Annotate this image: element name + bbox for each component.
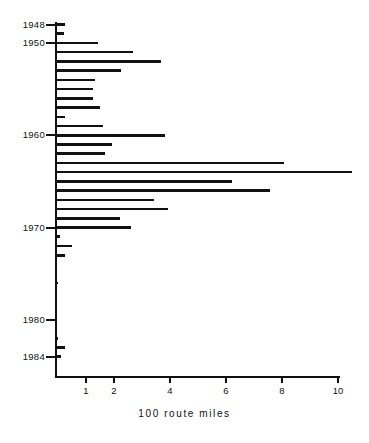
bar [57, 208, 168, 211]
bar [57, 162, 284, 165]
bar [57, 32, 64, 35]
bar [57, 116, 65, 119]
y-axis-tick-label: 1980 [9, 315, 45, 325]
bar [57, 355, 61, 358]
y-axis-tick [46, 24, 57, 26]
y-axis-tick-labels: 194819501960197019801984 [0, 0, 45, 443]
x-axis-tick-label: 1 [83, 386, 88, 396]
bar [57, 60, 161, 63]
bar [57, 171, 352, 174]
bar [57, 346, 65, 349]
y-axis-tick [46, 227, 57, 229]
x-axis-tick [113, 376, 115, 383]
x-axis-tick [281, 376, 283, 383]
bar [57, 337, 58, 340]
y-axis-tick [46, 319, 57, 321]
bar [57, 69, 121, 72]
x-axis-tick-label: 2 [111, 386, 116, 396]
x-axis-title: 100 route miles [0, 408, 369, 419]
y-axis-tick-label: 1960 [9, 130, 45, 140]
bar [57, 217, 120, 220]
y-axis-tick-label: 1948 [9, 20, 45, 30]
bar [57, 23, 65, 26]
y-axis-tick-label: 1970 [9, 223, 45, 233]
x-axis-tick-label: 10 [333, 386, 344, 396]
bar [57, 106, 100, 109]
x-axis-tick [85, 376, 87, 383]
bar [57, 88, 93, 91]
bar [57, 79, 95, 82]
bar [57, 189, 270, 192]
bar [57, 235, 60, 238]
bar-chart: 194819501960197019801984 1246810 100 rou… [0, 0, 369, 443]
bar [57, 97, 93, 100]
x-axis-tick-label: 4 [167, 386, 172, 396]
y-axis-tick-label: 1950 [9, 38, 45, 48]
y-axis-tick [46, 42, 57, 44]
x-axis-tick [225, 376, 227, 383]
bar [57, 143, 112, 146]
x-axis-line [55, 376, 340, 378]
bar [57, 199, 154, 202]
x-axis-tick-label: 8 [279, 386, 284, 396]
y-axis-tick [46, 356, 57, 358]
bar [57, 125, 103, 128]
y-axis-tick [46, 134, 57, 136]
bar [57, 254, 65, 257]
y-axis-tick-label: 1984 [9, 352, 45, 362]
bar [57, 245, 72, 248]
bar [57, 51, 133, 54]
bar [57, 226, 131, 229]
x-axis-tick-label: 6 [223, 386, 228, 396]
bar [57, 152, 105, 155]
bar [57, 42, 98, 45]
x-axis-tick [169, 376, 171, 383]
plot-area: 194819501960197019801984 1246810 100 rou… [0, 0, 369, 443]
bar [57, 134, 165, 137]
bar [57, 180, 232, 183]
bar [57, 282, 58, 285]
x-axis-tick [337, 376, 339, 383]
